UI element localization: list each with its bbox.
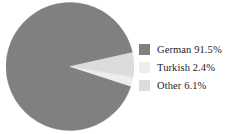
legend-label-other: Other 6.1% — [157, 80, 206, 92]
pie-chart-figure: German 91.5% Turkish 2.4% Other 6.1% — [0, 0, 238, 134]
legend-swatch-other-icon — [139, 80, 150, 91]
legend-label-german: German 91.5% — [157, 44, 222, 56]
legend-swatch-turkish-icon — [139, 62, 150, 73]
pie-slices — [6, 3, 134, 131]
chart-legend: German 91.5% Turkish 2.4% Other 6.1% — [139, 41, 237, 95]
legend-item-other[interactable]: Other 6.1% — [139, 77, 237, 94]
legend-label-turkish: Turkish 2.4% — [157, 62, 215, 74]
legend-item-german[interactable]: German 91.5% — [139, 41, 237, 58]
legend-swatch-german-icon — [139, 44, 150, 55]
pie-chart-svg — [6, 2, 134, 131]
pie-chart-plot-area — [6, 2, 134, 131]
legend-item-turkish[interactable]: Turkish 2.4% — [139, 59, 237, 76]
